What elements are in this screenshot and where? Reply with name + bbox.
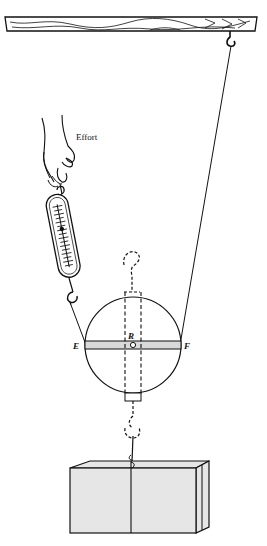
label-f: F (183, 341, 190, 351)
ceiling-hook-icon (227, 31, 235, 46)
dashed-lower-hook-icon (125, 401, 140, 438)
label-r: R (127, 331, 134, 341)
rope-left (71, 305, 86, 345)
load-string (132, 436, 133, 462)
hand-icon (42, 115, 75, 187)
spring-balance (44, 184, 82, 305)
center-pivot-r (130, 342, 135, 347)
label-e: E (72, 341, 79, 351)
effort-label: Effort (76, 132, 98, 142)
ceiling-beam (5, 17, 257, 31)
load-box (70, 461, 209, 533)
wheel-axle-diagram: Effort (0, 0, 267, 546)
rope-right (180, 46, 231, 345)
dashed-upper-hook-icon (124, 252, 140, 292)
wheel (85, 292, 181, 401)
